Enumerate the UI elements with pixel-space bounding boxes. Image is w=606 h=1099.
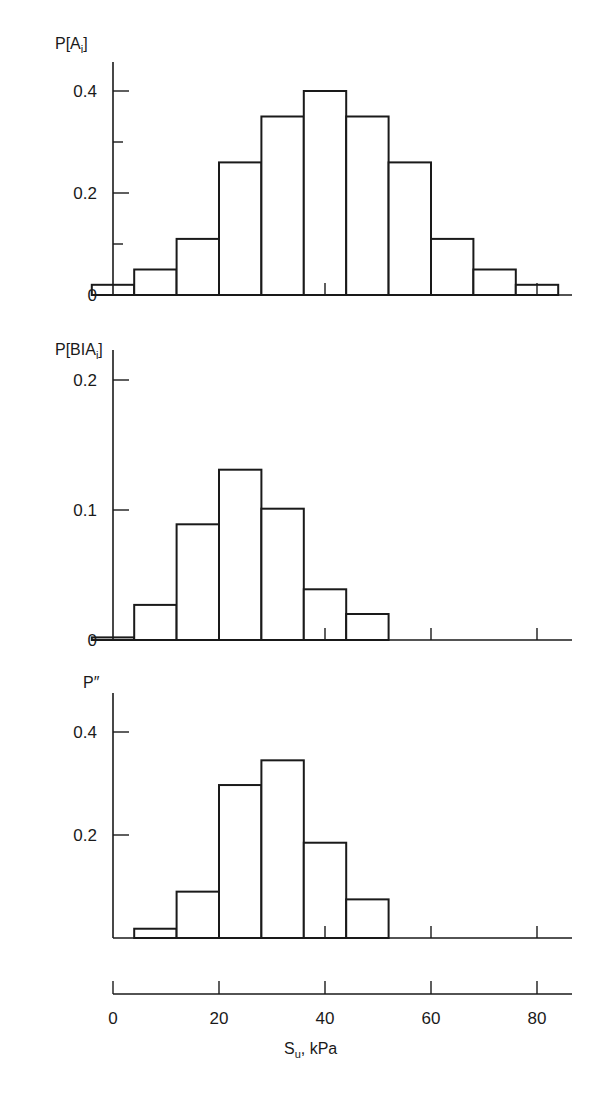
x-axis-label: Su, kPa — [284, 1040, 337, 1060]
x-tick-label: 20 — [210, 1009, 229, 1028]
histogram-bar — [431, 239, 473, 295]
histogram-bar — [219, 162, 261, 295]
y-tick-label: 0.2 — [73, 826, 97, 845]
histogram-bar — [389, 162, 431, 295]
y-axis: 0.20.4 — [73, 693, 129, 938]
x-axis-ticks: 020406080 — [108, 981, 572, 1028]
panel-posterior-probability: P″ 0.20.4 — [73, 674, 572, 938]
histogram-bar — [177, 524, 219, 640]
histogram-bar — [134, 270, 176, 296]
x-tick-label: 40 — [316, 1009, 335, 1028]
histogram-bar — [219, 470, 261, 640]
histogram-bars — [92, 470, 389, 640]
histogram-bar — [346, 899, 388, 938]
histogram-bar — [346, 614, 388, 640]
y-axis-label: P[Ai] — [55, 35, 88, 55]
histogram-bar — [346, 117, 388, 296]
histogram-bars — [134, 760, 388, 938]
histogram-bar — [261, 117, 303, 296]
histogram-bars — [92, 91, 558, 295]
x-tick-label: 60 — [422, 1009, 441, 1028]
histogram-bar — [304, 91, 346, 295]
y-tick-label: 0.2 — [73, 371, 97, 390]
histogram-bar — [177, 892, 219, 938]
histogram-bar — [261, 760, 303, 938]
x-tick-label: 80 — [528, 1009, 547, 1028]
panel-prior-probability: P[Ai] 00.20.4 — [55, 35, 572, 305]
x-tick-label: 0 — [108, 1009, 117, 1028]
y-axis: 00.20.4 — [73, 62, 129, 305]
histogram-bar — [177, 239, 219, 295]
y-axis-label: P″ — [83, 674, 100, 691]
y-tick-label: 0.2 — [73, 184, 97, 203]
histogram-bar — [304, 843, 346, 938]
y-axis-label: P[BIAi] — [55, 341, 103, 361]
y-tick-label: 0.1 — [73, 501, 97, 520]
y-tick-label: 0.4 — [73, 82, 97, 101]
histogram-bar — [473, 270, 515, 296]
histogram-bar — [134, 929, 176, 938]
figure: P[Ai] 00.20.4 P[BIAi] 00.10.2 P″ 0.20.4 … — [0, 0, 606, 1099]
histogram-bar — [134, 605, 176, 640]
histogram-bar — [219, 785, 261, 938]
y-tick-label: 0.4 — [73, 723, 97, 742]
shared-x-axis: 020406080 Su, kPa — [108, 981, 572, 1060]
y-axis: 00.10.2 — [73, 350, 129, 650]
panel-likelihood: P[BIAi] 00.10.2 — [55, 341, 572, 650]
histogram-bar — [261, 509, 303, 640]
